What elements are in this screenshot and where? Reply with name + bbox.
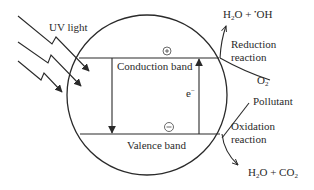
electron-label: e− bbox=[186, 87, 195, 99]
oxidation-product-co: O + CO bbox=[259, 166, 294, 178]
hole-plus-icon bbox=[163, 47, 171, 55]
reduction-product-arrow bbox=[220, 26, 226, 58]
oxygen-sub: 2 bbox=[265, 80, 269, 88]
valence-band-label: Valence band bbox=[127, 139, 186, 151]
oxygen-o: O bbox=[257, 74, 265, 86]
oxidation-label-line1: Oxidation bbox=[231, 120, 275, 133]
oxygen-label: O2 bbox=[257, 74, 268, 86]
pollutant-label: Pollutant bbox=[253, 95, 293, 107]
reduction-product-h: H bbox=[223, 8, 231, 20]
reduction-reaction-label: Reduction reaction bbox=[231, 38, 276, 64]
reduction-product-label: H2O + •OH bbox=[223, 8, 272, 20]
uv-light-label: UV light bbox=[49, 21, 88, 33]
oxidation-reaction-label: Oxidation reaction bbox=[231, 120, 275, 146]
reduction-product-oh: OH bbox=[257, 8, 273, 20]
reduction-product-o: O + bbox=[234, 8, 254, 20]
particle-circle bbox=[67, 15, 227, 175]
oxidation-product-co-sub: 2 bbox=[294, 172, 298, 180]
oxidation-label-line2: reaction bbox=[231, 133, 275, 146]
electron-charge: − bbox=[191, 87, 195, 95]
oxidation-product-h: H bbox=[248, 166, 256, 178]
reduction-label-line2: reaction bbox=[231, 51, 276, 64]
oxidation-product-label: H2O + CO2 bbox=[248, 166, 298, 178]
reduction-label-line1: Reduction bbox=[231, 38, 276, 51]
conduction-band-label: Conduction band bbox=[117, 60, 192, 72]
electron-minus-icon bbox=[165, 123, 174, 132]
